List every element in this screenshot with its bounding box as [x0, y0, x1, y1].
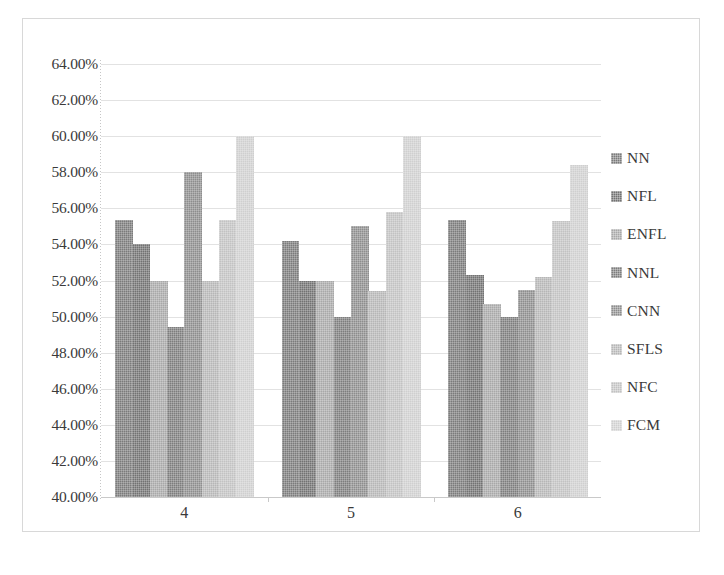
- y-tick-label: 62.00%: [51, 91, 98, 109]
- bar: [236, 136, 254, 497]
- bar: [202, 281, 220, 498]
- legend-item-nfc[interactable]: NFC: [611, 368, 695, 406]
- chart-legend: NNNFLENFLNNLCNNSFLSNFCFCM: [611, 139, 695, 445]
- bar: [334, 317, 352, 497]
- y-tick-label: 58.00%: [51, 163, 98, 181]
- bar: [570, 165, 588, 497]
- legend-swatch-icon: [611, 229, 622, 240]
- y-tick-label: 40.00%: [51, 488, 98, 506]
- bar: [282, 241, 300, 497]
- x-tick-mark: [434, 497, 435, 502]
- legend-swatch-icon: [611, 382, 622, 393]
- bar: [316, 281, 334, 498]
- y-tick-label: 60.00%: [51, 127, 98, 145]
- bar: [552, 221, 570, 497]
- y-tick-label: 50.00%: [51, 308, 98, 326]
- legend-label: NN: [627, 149, 650, 167]
- bar: [518, 290, 536, 497]
- legend-item-nnl[interactable]: NNL: [611, 254, 695, 292]
- plot-area: [101, 64, 601, 497]
- bar: [483, 304, 501, 497]
- bar: [115, 220, 133, 497]
- y-tick-label: 54.00%: [51, 235, 98, 253]
- legend-swatch-icon: [611, 267, 622, 278]
- bar: [167, 327, 185, 497]
- y-tick-label: 52.00%: [51, 272, 98, 290]
- x-axis-line: [101, 497, 601, 498]
- legend-label: SFLS: [627, 340, 663, 358]
- bar: [448, 220, 466, 497]
- y-tick-label: 48.00%: [51, 344, 98, 362]
- x-axis-labels: 456: [101, 504, 601, 534]
- y-tick-label: 42.00%: [51, 452, 98, 470]
- legend-swatch-icon: [611, 305, 622, 316]
- y-axis-labels: 64.00%62.00%60.00%58.00%56.00%54.00%52.0…: [26, 64, 98, 497]
- legend-label: ENFL: [627, 225, 667, 243]
- bar: [466, 275, 484, 497]
- x-tick-label: 6: [514, 504, 522, 522]
- bar: [299, 281, 317, 498]
- bar-group: [282, 64, 421, 497]
- x-tick-mark: [268, 497, 269, 502]
- y-tick-label: 44.00%: [51, 416, 98, 434]
- bar-group: [115, 64, 254, 497]
- legend-item-nfl[interactable]: NFL: [611, 177, 695, 215]
- legend-label: NNL: [627, 264, 659, 282]
- bar: [132, 244, 150, 497]
- bar: [351, 226, 369, 497]
- chart-figure: 64.00%62.00%60.00%58.00%56.00%54.00%52.0…: [0, 0, 724, 575]
- bar: [150, 281, 168, 498]
- legend-swatch-icon: [611, 420, 622, 431]
- legend-label: NFC: [627, 378, 658, 396]
- x-tick-label: 5: [347, 504, 355, 522]
- bar: [386, 212, 404, 497]
- bar: [403, 136, 421, 497]
- legend-swatch-icon: [611, 344, 622, 355]
- y-tick-label: 56.00%: [51, 199, 98, 217]
- bar: [184, 172, 202, 497]
- legend-item-sfls[interactable]: SFLS: [611, 330, 695, 368]
- bar: [535, 277, 553, 497]
- legend-item-cnn[interactable]: CNN: [611, 292, 695, 330]
- bar: [368, 291, 386, 497]
- bar-group: [448, 64, 587, 497]
- y-tick-label: 46.00%: [51, 380, 98, 398]
- legend-swatch-icon: [611, 191, 622, 202]
- legend-label: CNN: [627, 302, 660, 320]
- legend-item-enfl[interactable]: ENFL: [611, 215, 695, 253]
- legend-swatch-icon: [611, 153, 622, 164]
- bar: [219, 220, 237, 497]
- legend-item-fcm[interactable]: FCM: [611, 406, 695, 444]
- y-tick-label: 64.00%: [51, 55, 98, 73]
- legend-label: FCM: [627, 416, 660, 434]
- x-tick-label: 4: [180, 504, 188, 522]
- legend-item-nn[interactable]: NN: [611, 139, 695, 177]
- legend-label: NFL: [627, 187, 657, 205]
- bar: [500, 317, 518, 497]
